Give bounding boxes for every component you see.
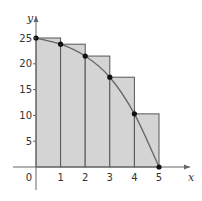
x-tick-label: 1 bbox=[57, 172, 63, 183]
data-point bbox=[83, 53, 88, 58]
y-axis-arrow-icon bbox=[34, 16, 39, 22]
y-axis-label: y bbox=[26, 12, 34, 25]
data-point bbox=[132, 111, 137, 116]
x-tick-label: 3 bbox=[107, 172, 113, 183]
rectangle bbox=[36, 38, 61, 167]
x-tick-label: 4 bbox=[131, 172, 137, 183]
y-tick-label: 15 bbox=[19, 84, 32, 95]
y-tick-label: 20 bbox=[19, 58, 32, 69]
x-tick-label: 5 bbox=[156, 172, 162, 183]
x-axis-label: x bbox=[188, 171, 195, 184]
x-axis-arrow-icon bbox=[184, 165, 190, 170]
y-tick-label: 10 bbox=[19, 110, 32, 121]
data-point bbox=[107, 75, 112, 80]
rectangles bbox=[36, 38, 159, 167]
rectangle bbox=[61, 44, 86, 167]
rectangle bbox=[110, 77, 135, 167]
y-tick-label: 5 bbox=[26, 136, 32, 147]
x-tick-label: 0 bbox=[26, 172, 32, 183]
y-tick-label: 25 bbox=[19, 33, 32, 44]
data-point bbox=[58, 42, 63, 47]
data-point bbox=[156, 164, 161, 169]
x-tick-label: 2 bbox=[82, 172, 88, 183]
riemann-sum-chart: 012345510152025xy bbox=[0, 0, 202, 201]
